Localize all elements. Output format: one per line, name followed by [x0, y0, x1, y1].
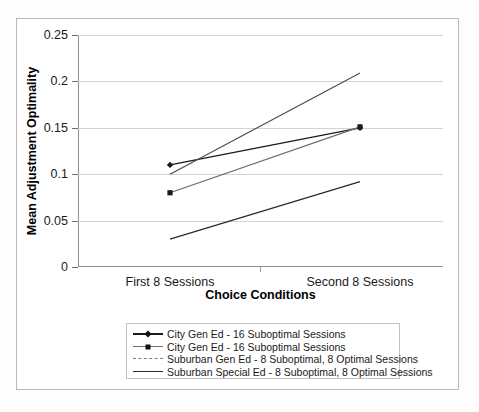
chart-figure: Mean Adjustment Optimality 00.050.10.150… — [0, 0, 479, 412]
series-line — [170, 73, 360, 174]
legend-item[interactable]: City Gen Ed - 16 Suboptimal Sessions — [133, 341, 399, 354]
legend-item[interactable]: Suburban Special Ed - 8 Suboptimal, 8 Op… — [133, 366, 399, 379]
x-category-label-1: First 8 Sessions — [126, 275, 215, 289]
y-axis-tick — [72, 267, 78, 268]
solid-line-key-icon — [133, 366, 163, 378]
data-point-marker — [167, 190, 172, 195]
square-line-key-icon — [133, 341, 163, 353]
y-axis-tick-label: 0.2 — [51, 74, 68, 88]
diamond-line-key-icon — [133, 328, 163, 340]
data-point-marker — [357, 124, 362, 129]
x-category-label-2: Second 8 Sessions — [306, 275, 413, 289]
legend-item-label: Suburban Special Ed - 8 Suboptimal, 8 Op… — [167, 366, 433, 379]
y-axis-tick-label: 0.15 — [44, 121, 68, 135]
series-layer — [78, 35, 443, 267]
y-axis-title: Mean Adjustment Optimality — [24, 35, 40, 267]
legend-item[interactable]: City Gen Ed - 16 Suboptimal Sessions — [133, 328, 399, 341]
x-axis-tick — [260, 267, 261, 272]
data-point-marker — [167, 162, 173, 168]
legend-item-label: City Gen Ed - 16 Suboptimal Sessions — [167, 341, 346, 354]
legend-item-label: City Gen Ed - 16 Suboptimal Sessions — [167, 328, 346, 341]
x-axis-title: Choice Conditions — [78, 288, 443, 302]
series-line — [170, 182, 360, 240]
plot-area: 00.050.10.150.20.25 First 8 Sessions Sec… — [78, 35, 443, 267]
y-axis-tick-label: 0.25 — [44, 28, 68, 42]
y-axis-tick-label: 0.1 — [51, 167, 68, 181]
dashed-line-key-icon — [133, 353, 163, 365]
legend-item-label: Suburban Gen Ed - 8 Suboptimal, 8 Optima… — [167, 353, 418, 366]
y-axis-tick-label: 0.05 — [44, 214, 68, 228]
legend-item[interactable]: Suburban Gen Ed - 8 Suboptimal, 8 Optima… — [133, 353, 399, 366]
chart-legend: City Gen Ed - 16 Suboptimal Sessions Cit… — [126, 323, 400, 379]
y-axis-tick-label: 0 — [61, 260, 68, 274]
